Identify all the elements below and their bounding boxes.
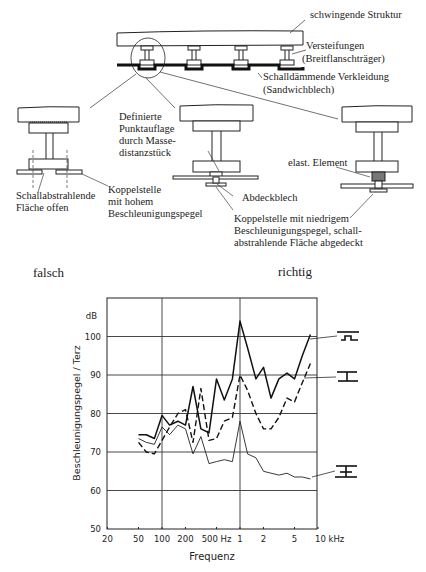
label-elastic-element: elast. Element bbox=[288, 157, 348, 168]
y-tick-label: 60 bbox=[90, 486, 101, 496]
label-cover-sheet: Abdeckblech bbox=[242, 192, 298, 203]
label-structure: schwingende Struktur bbox=[310, 9, 402, 20]
label-coupling-low-2: Beschleunigungspegel, schall- bbox=[234, 225, 362, 236]
y-tick-label: 90 bbox=[90, 370, 101, 380]
x-tick-label: 200 bbox=[177, 534, 193, 544]
detail-circle bbox=[131, 38, 165, 78]
legend-elastic-profile-icon bbox=[312, 466, 357, 477]
data-curves bbox=[139, 321, 311, 479]
overview-structure bbox=[90, 20, 338, 119]
label-right: richtig bbox=[278, 264, 312, 279]
label-point-support-3: durch Masse- bbox=[119, 135, 176, 146]
y-tick-label: 80 bbox=[90, 409, 101, 419]
label-wrong: falsch bbox=[33, 265, 65, 280]
label-coupling-high: Koppelstelle bbox=[108, 184, 161, 195]
series-line bbox=[139, 421, 311, 479]
x-tick-label: 1 bbox=[237, 534, 242, 544]
legend-cover-profile-icon bbox=[304, 372, 358, 381]
x-tick-label: 5 bbox=[292, 534, 297, 544]
label-coupling-low-3: abstrahlende Fläche abgedeckt bbox=[234, 237, 363, 248]
y-tick-label: 70 bbox=[90, 447, 101, 457]
label-open-surface-2: Fläche offen bbox=[16, 202, 69, 213]
axis-ticks: 50607080901002050100200500 Hz12510 kHz bbox=[85, 332, 345, 545]
acceleration-chart: 50607080901002050100200500 Hz12510 kHz d… bbox=[71, 298, 359, 562]
label-coupling-low: Koppelstelle mit niedrigem bbox=[234, 213, 349, 224]
x-tick-label: 10 kHz bbox=[315, 534, 345, 544]
y-tick-label: 100 bbox=[85, 332, 101, 342]
stiffener-2 bbox=[187, 46, 201, 65]
label-stiffeners-type: (Breitflanschträger) bbox=[302, 53, 385, 65]
stiffener-1 bbox=[140, 46, 154, 65]
x-tick-label: 100 bbox=[154, 534, 170, 544]
y-tick-label: 50 bbox=[90, 524, 101, 534]
y-axis-label: Beschleunigungspegel / Terz bbox=[71, 345, 82, 480]
stiffener-4 bbox=[280, 46, 294, 65]
stiffener-3 bbox=[234, 46, 248, 65]
series-line bbox=[139, 363, 311, 454]
label-point-support-4: distanzstück bbox=[119, 147, 172, 158]
label-point-support-2: Punktauflage bbox=[119, 123, 175, 134]
x-tick-label: 2 bbox=[261, 534, 266, 544]
label-open-surface: Schallabstrahlende bbox=[16, 190, 96, 201]
figure-canvas: schwingende Struktur Versteifungen (Brei… bbox=[0, 0, 426, 572]
sandwich-cladding bbox=[117, 65, 303, 69]
x-tick-label: 50 bbox=[133, 534, 144, 544]
detail-elastic bbox=[336, 106, 413, 218]
label-coupling-high-3: Beschleunigungspegel bbox=[108, 208, 203, 219]
label-stiffeners: Versteifungen bbox=[306, 40, 365, 51]
legend bbox=[304, 332, 359, 477]
label-cladding-type: (Sandwichblech) bbox=[263, 84, 335, 96]
label-cladding: Schalldämmende Verkleidung bbox=[263, 71, 390, 82]
label-coupling-high-2: mit hohem bbox=[108, 196, 153, 207]
x-axis-label: Frequenz bbox=[189, 551, 235, 562]
label-point-support: Definierte bbox=[119, 111, 162, 122]
x-tick-label: 20 bbox=[102, 534, 113, 544]
detail-wrong bbox=[17, 107, 108, 192]
y-unit: dB bbox=[86, 311, 97, 321]
x-tick-label: 500 Hz bbox=[202, 534, 232, 544]
